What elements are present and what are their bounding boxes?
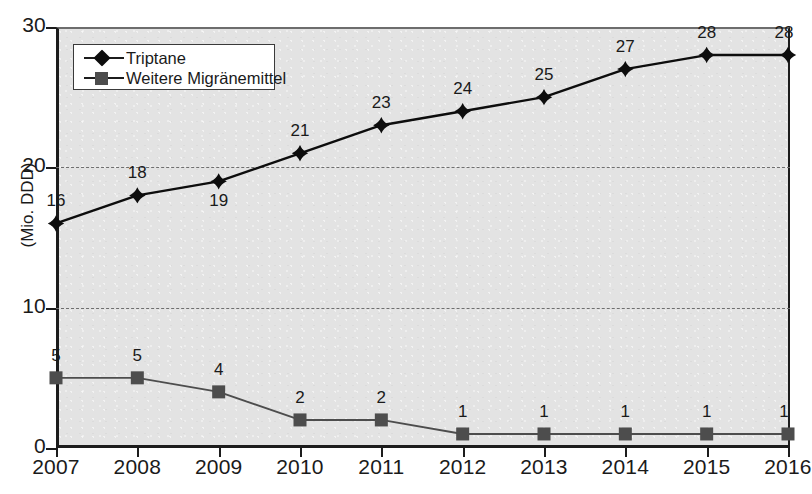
y-tick-mark-20 [46,167,56,169]
x-tick-label-2007: 2007 [32,455,80,479]
value-label-weitere-2016: 1 [779,402,788,422]
y-tick-label-30: 30 [22,13,46,37]
x-tick-label-2012: 2012 [439,455,487,479]
y-tick-mark-10 [46,308,56,310]
x-tick-label-2015: 2015 [683,455,731,479]
gridline-10 [56,308,790,309]
y-tick-mark-30 [46,27,56,29]
value-label-triptane-2013: 25 [535,65,554,85]
chart-legend: Triptane Weitere Migränemittel [73,44,275,90]
value-label-triptane-2014: 27 [616,37,635,57]
value-label-triptane-2007: 16 [47,191,66,211]
y-axis-title: (Mio. DDD) [18,135,38,275]
plot-area [56,27,790,448]
x-tick-label-2013: 2013 [520,455,568,479]
legend-item-weitere-migraenemittel[interactable]: Weitere Migränemittel [74,68,274,88]
y-tick-label-10: 10 [22,294,46,318]
value-label-triptane-2009: 19 [209,191,228,211]
square-marker-icon [82,69,126,87]
value-label-weitere-2012: 1 [458,402,467,422]
diamond-marker-icon [82,49,126,67]
value-label-weitere-2015: 1 [702,402,711,422]
value-label-weitere-2010: 2 [295,388,304,408]
value-label-weitere-2007: 5 [51,346,60,366]
value-label-triptane-2010: 21 [291,121,310,141]
value-label-triptane-2008: 18 [128,163,147,183]
legend-label-weitere-migraenemittel: Weitere Migränemittel [126,69,286,88]
x-tick-label-2010: 2010 [276,455,324,479]
value-label-weitere-2014: 1 [621,402,630,422]
value-label-triptane-2015: 28 [697,23,716,43]
y-tick-mark-0 [46,448,56,450]
value-label-triptane-2011: 23 [372,93,391,113]
gridline-20 [56,167,790,168]
value-label-weitere-2013: 1 [539,402,548,422]
x-tick-label-2008: 2008 [114,455,162,479]
value-label-weitere-2008: 5 [133,346,142,366]
legend-label-triptane: Triptane [126,49,186,68]
legend-item-triptane[interactable]: Triptane [74,48,274,68]
value-label-triptane-2016: 28 [775,23,794,43]
plot-texture [59,29,788,445]
value-label-weitere-2011: 2 [377,388,386,408]
value-label-triptane-2012: 24 [453,79,472,99]
x-tick-label-2014: 2014 [602,455,650,479]
x-tick-label-2016: 2016 [764,455,812,479]
x-tick-label-2009: 2009 [195,455,243,479]
value-label-weitere-2009: 4 [214,360,223,380]
x-tick-label-2011: 2011 [358,455,404,479]
